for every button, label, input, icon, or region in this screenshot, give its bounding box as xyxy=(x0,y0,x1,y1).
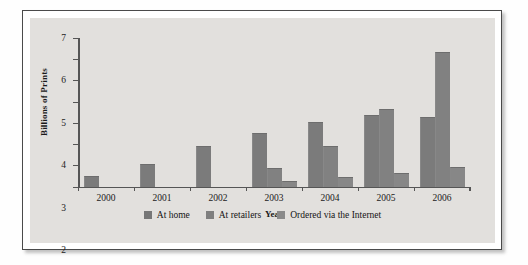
y-tick-label: 2 xyxy=(61,245,66,255)
x-tick-mark xyxy=(190,187,191,191)
bar-group xyxy=(414,38,470,187)
bar-group xyxy=(358,38,414,187)
x-tick-label: 2004 xyxy=(302,193,358,203)
bar xyxy=(435,52,450,187)
x-tick-slot xyxy=(358,187,414,192)
x-tick-slot xyxy=(134,187,190,192)
x-tick-slot xyxy=(246,187,302,192)
legend-item: At retailers xyxy=(206,210,261,220)
bar xyxy=(420,117,435,187)
figure-frame: Billions of Prints 01234567 200020012002… xyxy=(22,10,502,250)
x-tick-mark xyxy=(358,187,359,191)
x-tick-mark xyxy=(134,187,135,191)
bar-group xyxy=(78,38,134,187)
plot-area: 01234567 2000200120022003200420052006 Ye… xyxy=(78,38,468,197)
bar-group xyxy=(246,38,302,187)
x-tick-mark xyxy=(414,187,415,191)
x-tick-label: 2005 xyxy=(358,193,414,203)
bar xyxy=(323,146,338,186)
x-tick-label: 2001 xyxy=(134,193,190,203)
x-tick-label: 2002 xyxy=(190,193,246,203)
legend-item: Ordered via the Internet xyxy=(277,210,381,220)
bar-groups xyxy=(78,38,470,187)
x-tick-mark xyxy=(302,187,303,191)
bar xyxy=(84,176,99,187)
legend-swatch-at-retailers xyxy=(206,211,214,219)
legend-swatch-at-home xyxy=(144,211,152,219)
y-tick-label: 6 xyxy=(61,75,66,85)
bar xyxy=(338,177,353,187)
y-tick-label: 4 xyxy=(61,160,66,170)
x-axis-labels: 2000200120022003200420052006 xyxy=(78,193,470,203)
x-tick-label: 2000 xyxy=(78,193,134,203)
legend-item: At home xyxy=(144,210,190,220)
legend-label: At retailers xyxy=(219,210,261,220)
x-tick-mark xyxy=(78,187,79,191)
x-tick-mark xyxy=(246,187,247,191)
x-tick-label: 2006 xyxy=(414,193,470,203)
x-tick-slot xyxy=(414,187,470,192)
bar-group xyxy=(134,38,190,187)
bar-group xyxy=(190,38,246,187)
legend-label: At home xyxy=(157,210,190,220)
x-tick-slot xyxy=(78,187,134,192)
bar xyxy=(267,168,282,186)
bar xyxy=(364,115,379,186)
bar xyxy=(308,122,323,187)
x-tick-mark xyxy=(469,187,470,191)
x-axis-ticks xyxy=(78,187,470,192)
y-axis-title: Billions of Prints xyxy=(39,68,49,136)
bar xyxy=(450,167,465,186)
x-tick-slot xyxy=(190,187,246,192)
bar xyxy=(140,164,155,186)
bar xyxy=(379,109,394,186)
bar xyxy=(196,146,211,186)
legend-swatch-internet xyxy=(277,211,285,219)
bar-group xyxy=(302,38,358,187)
bar xyxy=(252,133,267,186)
y-tick-label: 5 xyxy=(61,118,66,128)
bar xyxy=(394,173,409,187)
chart-figure: Billions of Prints 01234567 200020012002… xyxy=(0,0,528,265)
legend-label: Ordered via the Internet xyxy=(290,210,381,220)
x-tick-slot xyxy=(302,187,358,192)
chart-legend: At homeAt retailersOrdered via the Inter… xyxy=(30,210,495,220)
y-tick-label: 7 xyxy=(61,33,66,43)
figure-panel: Billions of Prints 01234567 200020012002… xyxy=(30,18,495,243)
x-tick-label: 2003 xyxy=(246,193,302,203)
